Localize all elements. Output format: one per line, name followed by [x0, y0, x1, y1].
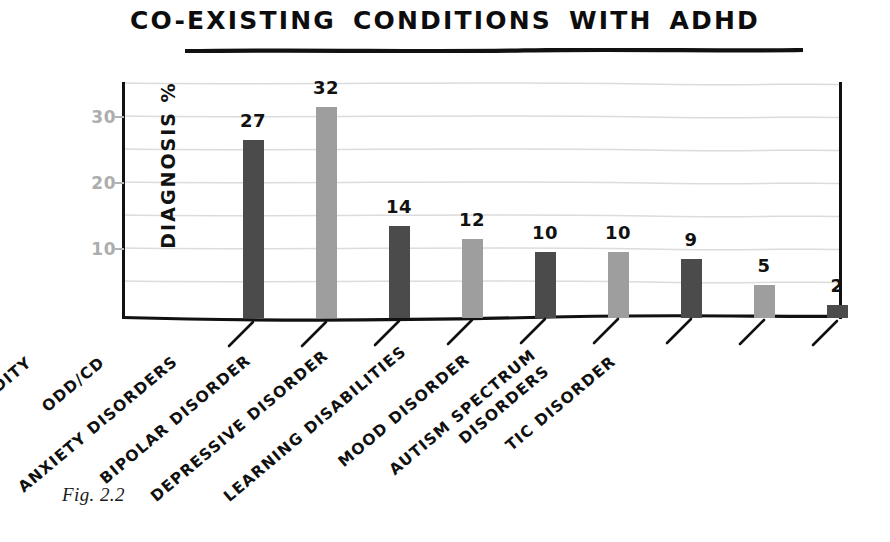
figure-caption: Fig. 2.2 [62, 484, 125, 506]
chart-title: CO-EXISTING CONDITIONS WITH ADHD [0, 6, 890, 35]
y-tick-label-20: 20 [76, 173, 116, 193]
bar-odd-cd[interactable] [316, 107, 337, 318]
bar-value-autism-spectrum-disorders: 5 [737, 255, 791, 276]
y-tick-mark-30 [115, 116, 124, 118]
bar-value-bipolar-disorder: 12 [445, 209, 499, 230]
bar-value-tic-disorder: 2 [810, 275, 864, 296]
plot-area: DIAGNOSIS % 30 20 10 27 32 14 12 10 10 9… [122, 82, 842, 318]
y-tick-mark-20 [115, 182, 124, 184]
bar-value-depressive-disorder: 10 [518, 222, 572, 243]
bar-no-comorbidity[interactable] [243, 140, 264, 318]
bar-value-learning-disabilities: 10 [591, 222, 645, 243]
figure-container: CO-EXISTING CONDITIONS WITH ADHD DIAGNOS… [0, 0, 890, 542]
y-tick-mark-10 [115, 248, 124, 250]
y-tick-label-10: 10 [76, 239, 116, 259]
bar-value-anxiety-disorders: 14 [372, 196, 426, 217]
title-underline [185, 48, 803, 53]
bar-value-no-comorbidity: 27 [226, 110, 280, 131]
bar-value-mood-disorder: 9 [664, 229, 718, 250]
bar-value-odd-cd: 32 [299, 77, 353, 98]
x-tick-marks [122, 300, 890, 360]
y-axis-title: DIAGNOSIS % [157, 81, 179, 248]
y-tick-label-30: 30 [76, 107, 116, 127]
